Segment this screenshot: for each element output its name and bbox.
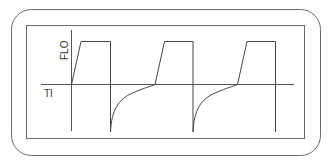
expiratory-recovery-curve [111,85,156,133]
outer-frame [12,10,321,156]
x-axis-label: TI [44,88,53,99]
inspiratory-pulse [155,42,193,133]
y-axis-label: FLO [59,40,70,60]
expiratory-recovery-curve [193,85,238,133]
inspiratory-pulse [238,42,276,133]
flow-waveform-diagram: FLO TI [0,0,332,162]
inspiratory-pulse [72,42,111,133]
flow-waveform [72,42,276,133]
